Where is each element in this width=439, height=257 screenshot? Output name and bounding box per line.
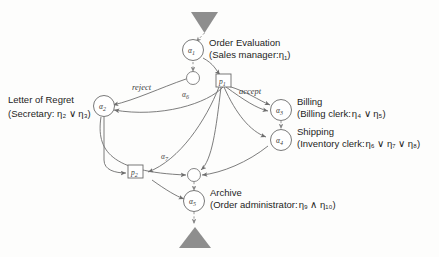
task-alpha2-name: Letter of Regret — [8, 94, 74, 105]
place-alpha6-label: α6 — [182, 90, 189, 100]
place-p2-sub: 2 — [135, 172, 138, 178]
task-alpha4-role: (Inventory clerk:η₆ ∨ η₇ ∨ η₈) — [297, 138, 420, 149]
edge-label-accept: accept — [239, 86, 262, 96]
task-caption-alpha3: Billing (Billing clerk:η₄ ∨ η₅) — [297, 96, 386, 119]
task-alpha3-role: (Billing clerk:η₄ ∨ η₅) — [297, 108, 386, 119]
workflow-diagram: p1 p2 α6 α7 α1 — [0, 0, 439, 257]
edge-alpha2-to-p2 — [104, 117, 126, 173]
place-p2[interactable]: p2 — [128, 165, 143, 178]
edge-alpha1-to-p1 — [203, 58, 220, 75]
task-caption-alpha2: Letter of Regret (Secretary: η₂ ∨ η₃) — [8, 94, 91, 119]
task-caption-alpha5: Archive (Order administrator:η₉ ∧ η₁₀) — [210, 187, 336, 210]
end-terminal — [179, 227, 211, 248]
place-alpha7-label: α7 — [161, 152, 169, 162]
task-alpha1-role: (Sales manager:η1) — [209, 49, 291, 61]
task-alpha2-role: (Secretary: η₂ ∨ η₃) — [8, 108, 91, 119]
diagram-canvas: p1 p2 α6 α7 α1 — [0, 0, 439, 257]
task-alpha3-name: Billing — [297, 96, 322, 107]
place-p1-sub: 1 — [223, 81, 226, 87]
task-alpha1-name: Order Evaluation — [209, 37, 280, 48]
edge-p2-to-alpha5 — [152, 180, 184, 199]
task-alpha4-name: Shipping — [297, 126, 334, 137]
place-alpha7[interactable] — [188, 169, 201, 182]
place-p1[interactable]: p1 — [216, 74, 231, 87]
edge-p1-to-alpha2 — [114, 86, 224, 112]
task-alpha5-name: Archive — [210, 187, 242, 198]
task-alpha5-role: (Order administrator:η₉ ∧ η₁₀) — [210, 199, 336, 210]
task-caption-alpha1: Order Evaluation (Sales manager:η1) — [209, 37, 291, 61]
task-node-alpha5[interactable]: α5 — [184, 191, 205, 212]
task-caption-alpha4: Shipping (Inventory clerk:η₆ ∨ η₇ ∨ η₈) — [297, 126, 420, 149]
place-alpha6[interactable] — [187, 72, 200, 85]
edge-alpha4-to-alpha7 — [202, 146, 268, 175]
edge-p1-to-p2 — [148, 87, 219, 172]
task-node-alpha4[interactable]: α4 — [271, 130, 292, 151]
start-terminal — [191, 12, 218, 33]
edge-label-reject: reject — [132, 82, 152, 92]
task-node-alpha2[interactable]: α2 — [94, 96, 115, 117]
task-node-alpha1[interactable]: α1 — [183, 40, 204, 61]
task-node-alpha3[interactable]: α3 — [271, 100, 292, 121]
